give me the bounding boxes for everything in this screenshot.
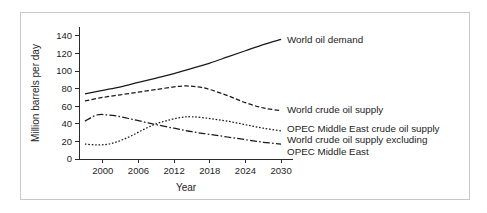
series-line-dashed: [85, 86, 281, 111]
series-labels: World oil demandWorld crude oil supplyOP…: [287, 34, 440, 158]
y-tick-label: 80: [61, 83, 72, 94]
series-label: World oil demand: [287, 34, 363, 45]
oil-supply-demand-line-chart: 020406080100120140 200020062012201820242…: [21, 13, 471, 201]
series-line-dashdot: [85, 114, 281, 144]
y-tick-label: 140: [56, 30, 72, 41]
y-tick-label: 20: [61, 136, 72, 147]
y-axis-title: Million barrels per day: [30, 44, 41, 142]
x-tick-label: 2012: [164, 165, 185, 176]
series-label: World crude oil supply: [287, 104, 383, 115]
chart-panel: 020406080100120140 200020062012201820242…: [20, 12, 470, 200]
series-line-solid: [85, 39, 281, 94]
y-tick-label: 0: [67, 153, 72, 164]
series-label: OPEC Middle East: [287, 146, 369, 157]
series-label: World crude oil supply excluding: [287, 134, 427, 145]
x-tick-label: 2006: [128, 165, 149, 176]
y-tick-label: 40: [61, 118, 72, 129]
x-tick-label: 2030: [271, 165, 292, 176]
x-tick-label: 2024: [235, 165, 256, 176]
x-axis-ticks: 200020062012201820242030: [92, 159, 291, 176]
series-lines: [85, 39, 281, 145]
y-tick-label: 120: [56, 48, 72, 59]
figure-root: 020406080100120140 200020062012201820242…: [0, 0, 487, 213]
series-label: OPEC Middle East crude oil supply: [287, 123, 440, 134]
y-tick-label: 100: [56, 65, 72, 76]
y-axis-ticks: 020406080100120140: [56, 30, 79, 164]
x-tick-label: 2000: [92, 165, 113, 176]
x-tick-label: 2018: [199, 165, 220, 176]
y-tick-label: 60: [61, 101, 72, 112]
x-axis-title: Year: [176, 182, 197, 193]
